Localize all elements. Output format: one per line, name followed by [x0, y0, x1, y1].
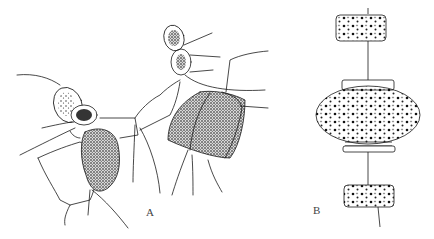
- panel-a-label: A: [146, 206, 154, 218]
- panel-b-label: B: [313, 204, 320, 216]
- panel-b-drawing: [316, 8, 420, 227]
- panel-a-drawing: [17, 23, 268, 228]
- diatom-illustration: A B: [0, 0, 434, 239]
- drawing-canvas: [0, 0, 434, 239]
